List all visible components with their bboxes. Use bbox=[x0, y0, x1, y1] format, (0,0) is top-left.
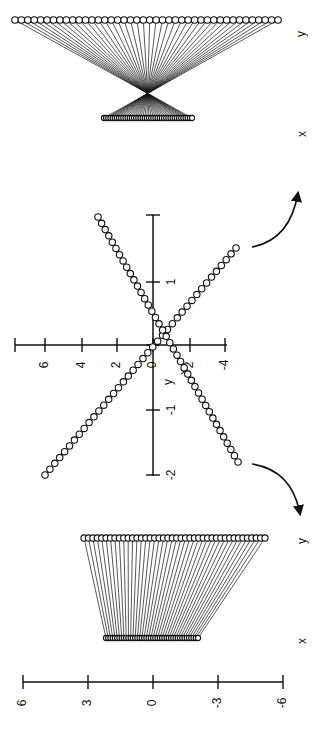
data-point bbox=[140, 355, 146, 361]
bottom-panel-label-y: y bbox=[295, 538, 309, 544]
data-point bbox=[56, 454, 62, 460]
data-point bbox=[95, 214, 101, 220]
data-point bbox=[163, 333, 169, 339]
data-point bbox=[223, 17, 230, 24]
data-point bbox=[189, 297, 195, 303]
data-point bbox=[172, 17, 179, 24]
scale-bar: 630-3-6 bbox=[15, 675, 289, 708]
data-point bbox=[224, 440, 230, 446]
data-point bbox=[101, 402, 107, 408]
data-point bbox=[181, 365, 187, 371]
data-point bbox=[223, 256, 229, 262]
scale-tick-label: -6 bbox=[275, 697, 289, 708]
data-point bbox=[135, 361, 141, 367]
y-tick-label: -2 bbox=[164, 469, 178, 480]
data-point bbox=[179, 309, 185, 315]
data-point bbox=[268, 17, 275, 24]
data-point bbox=[195, 390, 201, 396]
data-point bbox=[131, 277, 137, 283]
data-point bbox=[102, 17, 109, 24]
x-tick-label: 4 bbox=[74, 361, 88, 368]
arrow-to-bottom-panel bbox=[252, 464, 300, 514]
data-point bbox=[138, 289, 144, 295]
data-point bbox=[236, 17, 243, 24]
scale-tick-label: 0 bbox=[145, 699, 159, 706]
data-point bbox=[185, 371, 191, 377]
data-point bbox=[262, 17, 269, 24]
data-point bbox=[102, 226, 108, 232]
data-point bbox=[213, 421, 219, 427]
data-point bbox=[76, 431, 82, 437]
data-point bbox=[174, 315, 180, 321]
data-point bbox=[177, 358, 183, 364]
y-axis-label: y bbox=[161, 379, 175, 385]
data-point bbox=[275, 17, 282, 24]
data-point bbox=[211, 17, 218, 24]
data-point bbox=[192, 383, 198, 389]
data-point bbox=[141, 295, 147, 301]
data-point bbox=[178, 17, 185, 24]
data-point bbox=[120, 379, 126, 385]
data-point bbox=[150, 344, 156, 350]
scale-tick-label: -3 bbox=[210, 697, 224, 708]
data-point bbox=[57, 17, 64, 24]
data-point bbox=[152, 314, 158, 320]
data-point bbox=[52, 460, 58, 466]
data-point bbox=[249, 17, 256, 24]
data-point bbox=[156, 321, 162, 327]
data-point bbox=[204, 17, 211, 24]
data-point bbox=[210, 415, 216, 421]
x-tick-label: 6 bbox=[37, 361, 51, 368]
scale-tick-label: 3 bbox=[80, 699, 94, 706]
data-point bbox=[127, 17, 134, 24]
data-point bbox=[145, 350, 151, 356]
data-point bbox=[124, 264, 130, 270]
data-point bbox=[116, 251, 122, 257]
data-point bbox=[63, 17, 70, 24]
data-point bbox=[82, 17, 89, 24]
data-point bbox=[81, 425, 87, 431]
data-point bbox=[202, 402, 208, 408]
data-point bbox=[66, 443, 72, 449]
data-point bbox=[86, 419, 92, 425]
data-point bbox=[199, 396, 205, 402]
data-point bbox=[255, 17, 262, 24]
data-point bbox=[198, 17, 205, 24]
scale-tick-label: 6 bbox=[15, 699, 29, 706]
data-point bbox=[125, 373, 131, 379]
figure: y x 64202-41-1-2xy y x 630-3-6 bbox=[0, 0, 335, 730]
data-point bbox=[217, 427, 223, 433]
data-point bbox=[188, 377, 194, 383]
data-point bbox=[95, 17, 102, 24]
data-point bbox=[69, 17, 76, 24]
middle-panel-scatter: 64202-41-1-2xy bbox=[15, 214, 241, 481]
data-point bbox=[262, 535, 268, 541]
data-point bbox=[91, 414, 97, 420]
data-point bbox=[114, 17, 121, 24]
data-point bbox=[12, 17, 19, 24]
data-point bbox=[121, 17, 128, 24]
data-point bbox=[96, 408, 102, 414]
data-point bbox=[105, 396, 111, 402]
data-point bbox=[98, 220, 104, 226]
data-point bbox=[228, 446, 234, 452]
data-point bbox=[167, 339, 173, 345]
data-point bbox=[18, 17, 25, 24]
data-point bbox=[206, 409, 212, 415]
data-point bbox=[154, 338, 160, 344]
data-point bbox=[153, 17, 160, 24]
data-point bbox=[243, 17, 250, 24]
data-point bbox=[109, 239, 115, 245]
data-point bbox=[189, 115, 194, 120]
data-point bbox=[115, 384, 121, 390]
y-tick-label: 1 bbox=[164, 278, 178, 285]
y-tick-label: -1 bbox=[164, 404, 178, 415]
bottom-panel-label-x: x bbox=[295, 638, 309, 644]
data-point bbox=[120, 258, 126, 264]
data-point bbox=[166, 17, 173, 24]
arrow-to-top-panel bbox=[252, 193, 298, 247]
data-point bbox=[191, 17, 198, 24]
data-point bbox=[61, 449, 67, 455]
data-point bbox=[194, 291, 200, 297]
data-point bbox=[217, 17, 224, 24]
